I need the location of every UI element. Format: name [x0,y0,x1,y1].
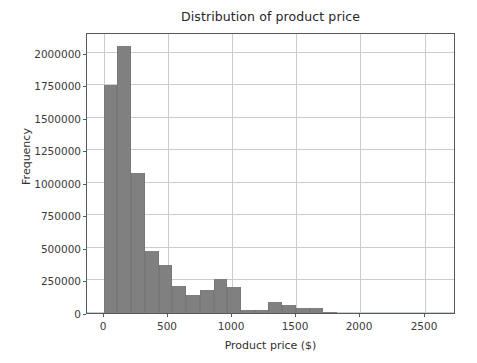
histogram-bar [131,173,145,313]
histogram-bar [145,251,159,313]
x-tick-label: 2500 [411,320,438,332]
y-tick-mark [83,216,86,217]
chart-title: Distribution of product price [86,9,455,24]
x-axis-label: Product price ($) [86,339,455,352]
histogram-bar [159,265,173,313]
histogram-bar [200,290,214,313]
histogram-bar [172,286,186,313]
y-tick-mark [83,249,86,250]
y-tick-label: 500000 [41,243,81,255]
x-tick-mark [295,314,296,317]
y-tick-mark [83,184,86,185]
gridline-horizontal [87,52,454,53]
histogram-bar [186,295,200,313]
y-tick-label: 0 [74,308,81,320]
x-tick-mark [167,314,168,317]
y-tick-mark [83,314,86,315]
histogram-bar [310,308,324,313]
histogram-bar [227,287,241,313]
y-tick-label: 1500000 [34,113,81,125]
y-tick-mark [83,281,86,282]
y-tick-label: 1250000 [34,145,81,157]
gridline-vertical [360,34,361,313]
histogram-bar [282,305,296,313]
histogram-bar [241,310,255,313]
gridline-vertical [232,34,233,313]
histogram-bar [104,85,118,313]
x-tick-label: 1000 [218,320,245,332]
gridline-vertical [425,34,426,313]
x-tick-label: 2000 [346,320,373,332]
x-tick-mark [231,314,232,317]
histogram-figure: Distribution of product price 0500100015… [0,0,477,363]
gridline-horizontal [87,149,454,150]
y-tick-mark [83,54,86,55]
histogram-bar [255,310,269,313]
x-tick-mark [424,314,425,317]
x-tick-label: 0 [100,320,107,332]
histogram-bar [117,46,131,313]
y-tick-label: 1000000 [34,178,81,190]
x-tick-label: 1500 [282,320,309,332]
y-tick-label: 2000000 [34,48,81,60]
gridline-vertical [296,34,297,313]
gridline-horizontal [87,84,454,85]
y-axis-label: Frequency [20,97,33,217]
x-tick-mark [359,314,360,317]
y-tick-mark [83,151,86,152]
plot-area [86,33,455,314]
histogram-bar [323,312,337,313]
histogram-bar [214,279,228,313]
y-tick-mark [83,86,86,87]
y-tick-label: 1750000 [34,80,81,92]
histogram-bar [268,302,282,313]
y-tick-label: 750000 [41,210,81,222]
x-tick-label: 500 [157,320,177,332]
y-tick-mark [83,119,86,120]
x-tick-mark [103,314,104,317]
gridline-horizontal [87,117,454,118]
y-tick-label: 250000 [41,275,81,287]
histogram-bar [296,308,310,313]
